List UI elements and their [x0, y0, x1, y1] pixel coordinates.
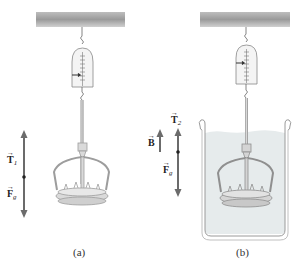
center-dot-a	[22, 175, 26, 179]
label-T1: →T1	[7, 155, 17, 167]
caption-a: (a)	[73, 246, 85, 258]
label-B: →B	[148, 138, 155, 148]
crown-a	[54, 143, 109, 205]
arrowhead-Fg-b	[175, 189, 182, 197]
ceiling-a	[36, 12, 125, 27]
spring-scale-b	[236, 45, 257, 84]
caption-b: (b)	[236, 246, 249, 258]
arrowhead-Fg-a	[21, 210, 28, 218]
label-Fg-a: →Fg	[7, 189, 17, 201]
label-T2: →T2	[171, 115, 181, 127]
spring-scale-a	[72, 48, 93, 87]
ceiling-b	[200, 12, 290, 27]
panel-a	[21, 12, 126, 218]
hook-top-a	[81, 36, 84, 44]
vector-diagram-a	[21, 130, 28, 218]
arrowhead-T1	[21, 130, 28, 138]
arrowhead-B	[157, 129, 164, 137]
label-Fg-b: →Fg	[163, 165, 173, 177]
arrowhead-T2	[175, 128, 182, 136]
center-dot-b	[176, 150, 180, 154]
hook-top-b	[245, 34, 248, 42]
